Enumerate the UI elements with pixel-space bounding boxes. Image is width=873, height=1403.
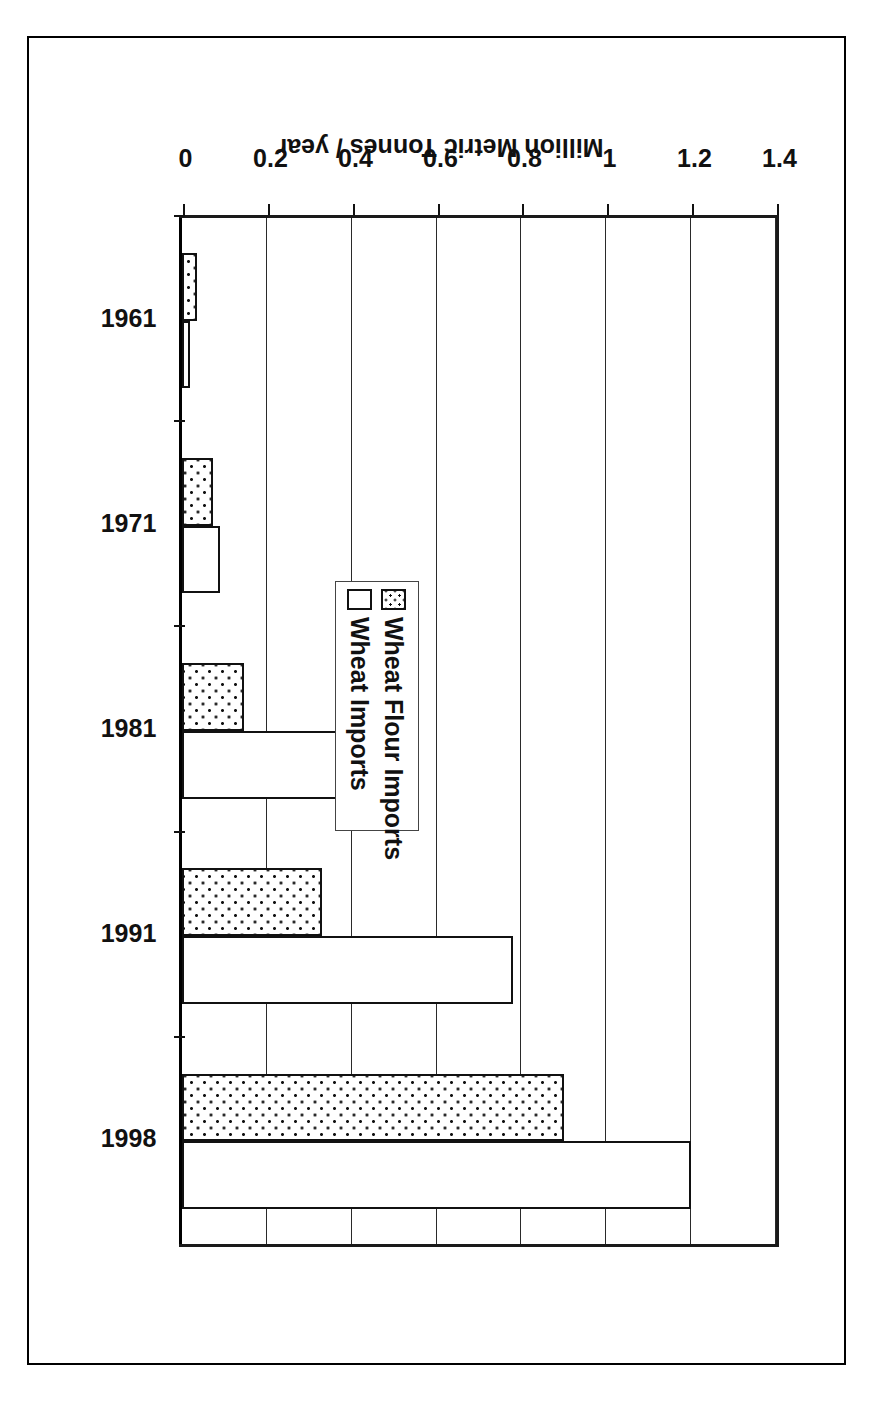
category-axis-tick-label: 1991	[83, 918, 173, 947]
plot-area	[179, 215, 779, 1247]
bar-chart: Million Metric Tonnes / year 00.20.40.60…	[67, 111, 807, 1291]
bar-group	[182, 628, 776, 833]
legend-item-wheat-flour-imports: Wheat Flour Imports	[377, 589, 411, 821]
category-axis-tick-mark	[174, 830, 185, 832]
value-axis-tick-label: 0	[150, 143, 220, 172]
bar-wheat-imports	[182, 525, 220, 593]
value-axis-tick-label: 1.4	[744, 143, 814, 172]
category-axis-tick-mark	[174, 625, 185, 627]
bar-wheat-imports	[182, 320, 190, 388]
bar-wheat-imports	[182, 1141, 691, 1209]
legend-label: Wheat Imports	[347, 617, 372, 791]
category-axis-tick-label: 1998	[83, 1123, 173, 1152]
value-axis-tick-mark	[437, 204, 439, 215]
bar-wheat-imports	[182, 936, 513, 1004]
value-axis-tick-mark	[522, 204, 524, 215]
bar-group	[182, 833, 776, 1038]
value-axis-tick-mark	[183, 204, 185, 215]
legend-swatch-dotted-icon	[381, 589, 406, 610]
bar-group	[182, 1038, 776, 1243]
value-axis-tick-mark	[352, 204, 354, 215]
bar-group	[182, 218, 776, 423]
bar-series-container	[182, 218, 776, 1244]
value-axis-tick-label: 0.6	[405, 143, 475, 172]
rotated-chart-wrapper: Million Metric Tonnes / year 00.20.40.60…	[67, 111, 807, 1291]
bar-wheat-flour-imports	[182, 663, 244, 731]
bar-group	[182, 423, 776, 628]
value-axis-tick-label: 1.2	[659, 143, 729, 172]
value-axis-tick-mark	[692, 204, 694, 215]
value-axis-tick-label: 0.2	[235, 143, 305, 172]
category-axis-tick-mark	[174, 215, 185, 217]
value-axis-tick-mark	[607, 204, 609, 215]
bar-wheat-flour-imports	[182, 1073, 564, 1141]
value-axis-tick-label: 0.4	[320, 143, 390, 172]
legend-swatch-white-icon	[347, 589, 372, 610]
value-axis-tick-mark	[777, 204, 779, 215]
value-axis-tick-label: 0.8	[489, 143, 559, 172]
figure-frame: Million Metric Tonnes / year 00.20.40.60…	[27, 36, 846, 1365]
bar-wheat-flour-imports	[182, 252, 197, 320]
category-axis-tick-label: 1961	[83, 303, 173, 332]
legend-item-wheat-imports: Wheat Imports	[343, 589, 377, 821]
bar-wheat-flour-imports	[182, 868, 322, 936]
legend-label: Wheat Flour Imports	[381, 617, 406, 860]
category-axis-tick-mark	[174, 420, 185, 422]
category-axis-tick-label: 1981	[83, 713, 173, 742]
category-axis-tick-label: 1971	[83, 508, 173, 537]
bar-wheat-flour-imports	[182, 458, 213, 526]
value-axis-tick-mark	[267, 204, 269, 215]
value-axis-tick-label: 1	[574, 143, 644, 172]
chart-legend: Wheat Flour Imports Wheat Imports	[335, 581, 419, 831]
category-axis-tick-mark	[174, 1035, 185, 1037]
